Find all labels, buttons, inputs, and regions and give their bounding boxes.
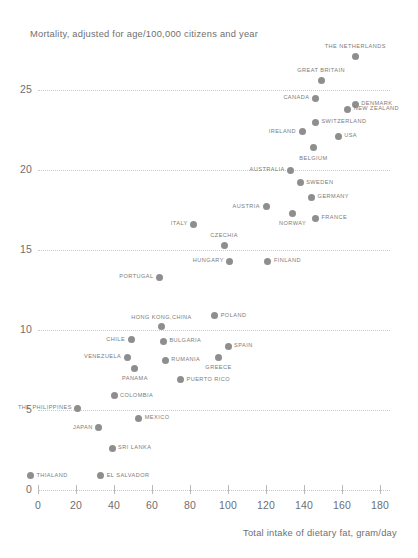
data-point[interactable]	[109, 445, 116, 452]
data-point[interactable]	[226, 258, 233, 265]
x-axis-title: Total intake of dietary fat, gram/day	[243, 528, 397, 538]
data-point[interactable]	[297, 179, 304, 186]
data-point-label: HUNGARY	[193, 258, 224, 264]
gridline-y-20	[38, 170, 390, 172]
data-point-label: SRI LANKA	[118, 446, 151, 452]
data-point-label: PANAMA	[122, 377, 148, 383]
x-tick-label-140: 140	[295, 499, 313, 511]
data-point-label: VENEZUELA	[84, 354, 121, 360]
data-point-label: THE PHILIPPINES	[18, 406, 72, 412]
y-tick-label-20: 20	[4, 163, 32, 175]
data-point-label: FRANCE	[321, 215, 347, 221]
data-point[interactable]	[312, 215, 319, 222]
data-point[interactable]	[156, 274, 163, 281]
data-point[interactable]	[308, 194, 315, 201]
x-tick-label-0: 0	[35, 499, 41, 511]
data-point[interactable]	[352, 53, 359, 60]
gridline-y-15	[38, 250, 390, 252]
gridline-y-25	[38, 90, 390, 92]
data-point-label: EL SALVADOR	[107, 473, 150, 479]
data-point[interactable]	[299, 128, 306, 135]
data-point[interactable]	[124, 354, 131, 361]
plot-area: 5101520250020406080100120140160180THE NE…	[0, 0, 418, 558]
x-tick-label-40: 40	[108, 499, 120, 511]
data-point-label: ITALY	[171, 222, 188, 228]
data-point-label: AUSTRALIA	[250, 167, 285, 173]
data-point[interactable]	[310, 144, 317, 151]
data-point-label: GERMANY	[318, 194, 349, 200]
data-point[interactable]	[318, 77, 325, 84]
data-point[interactable]	[131, 365, 138, 372]
x-tick-label-180: 180	[371, 499, 389, 511]
data-point[interactable]	[190, 221, 197, 228]
data-point-label: CZECHIA	[210, 234, 238, 240]
y-tick-label-15: 15	[4, 243, 32, 255]
data-point-label: GREAT BRITAIN	[297, 69, 345, 75]
data-point-label: AUSTRIA	[233, 204, 260, 210]
data-point-label: NORWAY	[279, 222, 306, 228]
y-tick-label-0: 0	[4, 483, 32, 495]
data-point-label: THIALAND	[36, 473, 67, 479]
data-point[interactable]	[312, 119, 319, 126]
data-point[interactable]	[162, 357, 169, 364]
data-point[interactable]	[27, 472, 34, 479]
data-point[interactable]	[287, 167, 294, 174]
data-point[interactable]	[312, 95, 319, 102]
data-point-label: COLOMBIA	[120, 393, 153, 399]
data-point-label: CANADA	[283, 95, 309, 101]
x-tick-label-60: 60	[146, 499, 158, 511]
data-point[interactable]	[111, 392, 118, 399]
data-point[interactable]	[135, 415, 142, 422]
data-point-label: PUERTO RICO	[187, 377, 231, 383]
data-point[interactable]	[95, 424, 102, 431]
y-tick-label-10: 10	[4, 323, 32, 335]
data-point[interactable]	[264, 258, 271, 265]
data-point-label: PORTUGAL	[119, 274, 153, 280]
data-point[interactable]	[215, 354, 222, 361]
data-point-label: IRELAND	[269, 129, 296, 135]
gridline-y-5	[38, 410, 390, 412]
data-point[interactable]	[335, 133, 342, 140]
x-tick-label-100: 100	[219, 499, 237, 511]
data-point-label: THE NETHERLANDS	[325, 45, 386, 51]
data-point-label: RUMANIA	[171, 358, 200, 364]
data-point-label: CHILE	[106, 337, 125, 343]
data-point[interactable]	[97, 472, 104, 479]
x-tick-label-160: 160	[333, 499, 351, 511]
data-point-label: FINLAND	[274, 258, 301, 264]
data-point-label: MEXICO	[145, 415, 170, 421]
data-point-label: BELGIUM	[299, 156, 327, 162]
data-point-label: SWEDEN	[306, 180, 333, 186]
data-point-label: GREECE	[205, 366, 231, 372]
data-point[interactable]	[160, 338, 167, 345]
y-tick-label-25: 25	[4, 83, 32, 95]
gridline-y-10	[38, 330, 390, 332]
data-point-label: POLAND	[221, 313, 247, 319]
data-point-label: HONG KONG,CHINA	[131, 315, 192, 321]
data-point-label: JAPAN	[73, 425, 93, 431]
data-point[interactable]	[344, 106, 351, 113]
data-point-label: BULGARIA	[169, 338, 201, 344]
data-point[interactable]	[225, 343, 232, 350]
x-tick-label-20: 20	[70, 499, 82, 511]
x-tick-label-120: 120	[257, 499, 275, 511]
data-point-label: SPAIN	[234, 343, 253, 349]
data-point-label: USA	[344, 134, 357, 140]
data-point-label: NEW ZEALAND	[354, 106, 399, 112]
x-tick-label-80: 80	[184, 499, 196, 511]
data-point[interactable]	[211, 312, 218, 319]
scatter-chart: Mortality, adjusted for age/100,000 citi…	[0, 0, 418, 558]
data-point[interactable]	[289, 210, 296, 217]
data-point[interactable]	[221, 242, 228, 249]
data-point[interactable]	[128, 336, 135, 343]
data-point[interactable]	[263, 203, 270, 210]
data-point[interactable]	[177, 376, 184, 383]
data-point-label: SWITZERLAND	[321, 119, 366, 125]
x-axis-line	[38, 490, 390, 492]
